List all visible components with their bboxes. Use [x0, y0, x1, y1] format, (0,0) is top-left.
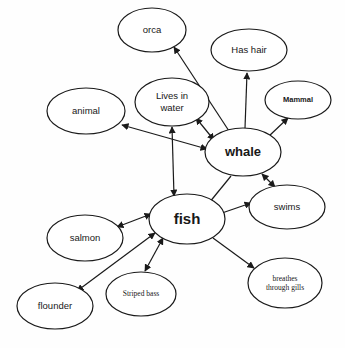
node-ellipse-lives[interactable] [135, 78, 209, 126]
edge-whale-to-swims [262, 174, 275, 187]
edge-whale-to-mammal [268, 118, 288, 137]
edge-fish-to-whale [209, 176, 231, 203]
edge-fish-to-striped [145, 238, 163, 271]
edge-whale-to-lives [196, 118, 214, 140]
node-ellipse-whale[interactable] [205, 128, 281, 176]
node-ellipse-gills[interactable] [248, 258, 322, 308]
node-ellipse-flounder[interactable] [17, 283, 93, 329]
diagram-svg [0, 0, 345, 348]
node-ellipse-fish[interactable] [149, 194, 225, 244]
edge-fish-to-salmon [117, 214, 151, 227]
node-layer [17, 8, 331, 329]
edge-fish-to-swims [222, 203, 251, 213]
edge-fish-to-lives [172, 127, 174, 196]
edge-whale-to-hashair [245, 73, 247, 128]
node-ellipse-mammal[interactable] [265, 81, 331, 119]
edge-fish-to-gills [213, 238, 254, 268]
node-ellipse-salmon[interactable] [47, 215, 123, 261]
node-ellipse-striped[interactable] [106, 272, 176, 316]
node-ellipse-swims[interactable] [249, 185, 325, 229]
node-ellipse-orca[interactable] [118, 8, 186, 52]
concept-map-canvas: orcaHas hairMammalLives in wateranimalwh… [0, 0, 345, 348]
node-ellipse-animal[interactable] [47, 88, 125, 134]
node-ellipse-hashair[interactable] [211, 29, 287, 71]
edge-whale-to-animal [122, 125, 207, 149]
